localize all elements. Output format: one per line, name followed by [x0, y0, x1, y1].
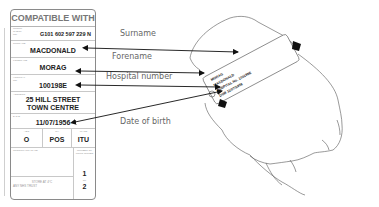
- surname-arrow: [87, 48, 238, 52]
- arrows-and-hand: MORAG MACDONALD HOSPITAL No. 100198E DOB…: [0, 0, 379, 207]
- forename-arrow: [80, 71, 204, 73]
- dob-arrow: [75, 91, 222, 122]
- blood-label-diagram: COMPATIBLE WITH GROUP CHECK No. G101 602…: [0, 0, 379, 207]
- wristband: MORAG MACDONALD HOSPITAL No. 100198E DOB…: [202, 34, 300, 105]
- hand-illustration: [190, 16, 342, 195]
- hospital-arrow: [80, 85, 220, 87]
